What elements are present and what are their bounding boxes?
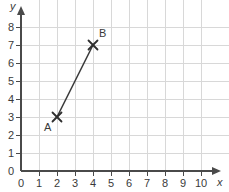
x-tick-label-6: 6 xyxy=(122,178,136,189)
x-tick-label-0: 0 xyxy=(14,178,28,189)
y-tick-label-2: 2 xyxy=(2,130,14,141)
y-tick-label-8: 8 xyxy=(2,22,14,33)
x-tick-label-2: 2 xyxy=(50,178,64,189)
x-tick-label-1: 1 xyxy=(32,178,46,189)
x-tick-label-7: 7 xyxy=(140,178,154,189)
x-tick-label-9: 9 xyxy=(176,178,190,189)
point-label-a: A xyxy=(44,122,51,133)
x-tick-label-10: 10 xyxy=(194,178,208,189)
coordinate-plane-chart: y x 0 1 2 3 4 5 6 7 8 0 1 2 3 4 5 6 7 8 … xyxy=(0,0,229,192)
x-tick-label-5: 5 xyxy=(104,178,118,189)
point-label-b: B xyxy=(99,28,106,39)
y-tick-label-4: 4 xyxy=(2,94,14,105)
x-tick-label-8: 8 xyxy=(158,178,172,189)
y-tick-label-1: 1 xyxy=(2,148,14,159)
chart-labels: y x 0 1 2 3 4 5 6 7 8 0 1 2 3 4 5 6 7 8 … xyxy=(0,0,229,192)
x-axis-label: x xyxy=(217,177,223,188)
y-axis-label: y xyxy=(10,1,16,12)
x-tick-label-3: 3 xyxy=(68,178,82,189)
x-tick-label-4: 4 xyxy=(86,178,100,189)
y-tick-label-6: 6 xyxy=(2,58,14,69)
y-tick-label-3: 3 xyxy=(2,112,14,123)
y-tick-label-7: 7 xyxy=(2,40,14,51)
y-tick-label-0: 0 xyxy=(2,166,14,177)
y-tick-label-5: 5 xyxy=(2,76,14,87)
